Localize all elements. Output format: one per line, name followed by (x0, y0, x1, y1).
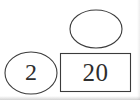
left-ellipse-label: 2 (5, 60, 57, 84)
top-empty-ellipse-shape[interactable] (70, 10, 122, 48)
value-rectangle-label: 20 (60, 60, 131, 85)
diagram-shapes-layer (0, 0, 140, 100)
diagram-canvas: 2 20 (0, 0, 140, 100)
